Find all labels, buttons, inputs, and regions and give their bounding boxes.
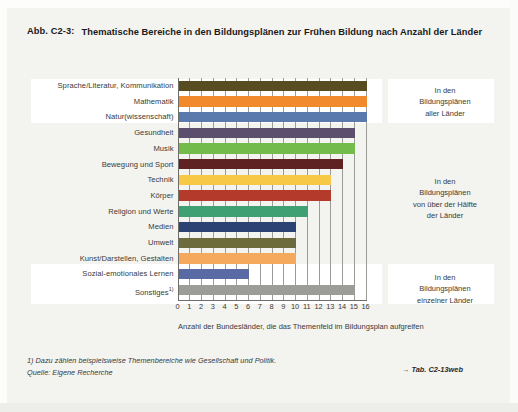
- x-tick-16: 16: [355, 302, 377, 311]
- footnote-text: 1) Dazu zählen beispielsweise Themenbere…: [27, 355, 367, 367]
- annotation-individual-laender: In denBildungspläneneinzelner Länder: [396, 272, 494, 306]
- category-label: Umwelt: [34, 235, 174, 251]
- annotation-line: Bildungsplänen: [396, 96, 494, 107]
- category-label: Gesundheit: [34, 125, 174, 141]
- page-edge-bottom: [0, 403, 518, 412]
- annotation-line: von über der Hälfte: [396, 199, 494, 210]
- category-label: Kunst/Darstellen, Gestalten: [34, 251, 174, 267]
- category-label: Medien: [34, 219, 174, 235]
- category-label: Sozial-emotionales Lernen: [34, 266, 174, 282]
- annotation-line: Bildungsplänen: [396, 187, 494, 198]
- chart-row: Umwelt: [27, 235, 493, 251]
- annotation-line: der Länder: [396, 210, 494, 221]
- category-label: Natur(wissenschaft): [34, 109, 174, 125]
- category-label: Mathematik: [34, 94, 174, 110]
- category-label: Körper: [34, 188, 174, 204]
- table-reference-label: Tab. C2-13web: [411, 365, 462, 374]
- chart-row: Bewegung und Sport: [27, 157, 493, 173]
- category-label: Musik: [34, 141, 174, 157]
- figure-number: Abb. C2-3:: [27, 26, 81, 36]
- figure-page: Abb. C2-3: Thematische Bereiche in den B…: [0, 0, 518, 412]
- chart-row: Musik: [27, 141, 493, 157]
- bar: [179, 128, 355, 138]
- x-axis-line: [178, 300, 367, 301]
- annotation-line: In den: [396, 272, 494, 283]
- figure-title-block: Abb. C2-3: Thematische Bereiche in den B…: [27, 26, 493, 39]
- chart-row: Kunst/Darstellen, Gestalten: [27, 251, 493, 267]
- bar: [179, 238, 297, 248]
- annotation-line: aller Länder: [396, 108, 494, 119]
- figure-title: Thematische Bereiche in den Bildungsplän…: [81, 26, 482, 39]
- bar: [179, 175, 332, 185]
- category-label: Bewegung und Sport: [34, 157, 174, 173]
- annotation-line: einzelner Länder: [396, 295, 494, 306]
- bar: [179, 96, 367, 106]
- source-text: Quelle: Eigene Recherche: [27, 367, 367, 379]
- footnote-marker: 1): [169, 286, 174, 292]
- bar: [179, 269, 250, 279]
- annotation-more-than-half: In denBildungsplänenvon über der Hälfted…: [396, 176, 494, 222]
- bar: [179, 222, 297, 232]
- bar: [179, 159, 344, 169]
- annotation-line: Bildungsplänen: [396, 283, 494, 294]
- chart-row: Gesundheit: [27, 125, 493, 141]
- category-label: Sprache/Literatur, Kommunikation: [34, 78, 174, 94]
- page-edge-right: [510, 0, 518, 412]
- bar: [179, 285, 355, 295]
- annotation-line: In den: [396, 85, 494, 96]
- x-axis-title: Anzahl der Bundesländer, die das Themenf…: [178, 322, 424, 331]
- arrow-right-icon: →: [402, 365, 409, 374]
- bar: [179, 81, 367, 91]
- table-reference-link[interactable]: → Tab. C2-13web: [402, 365, 463, 374]
- bar: [179, 253, 297, 263]
- category-label: Religion und Werte: [34, 204, 174, 220]
- page-edge-left: [0, 0, 7, 412]
- annotation-line: In den: [396, 176, 494, 187]
- bar: [179, 206, 308, 216]
- category-label: Technik: [34, 172, 174, 188]
- page-edge-top: [0, 0, 518, 8]
- bar: [179, 190, 332, 200]
- bar: [179, 143, 355, 153]
- category-label: Sonstiges1): [34, 282, 174, 300]
- figure-footer: 1) Dazu zählen beispielsweise Themenbere…: [27, 355, 367, 378]
- annotation-all-laender: In denBildungsplänenaller Länder: [396, 85, 494, 119]
- bar: [179, 112, 367, 122]
